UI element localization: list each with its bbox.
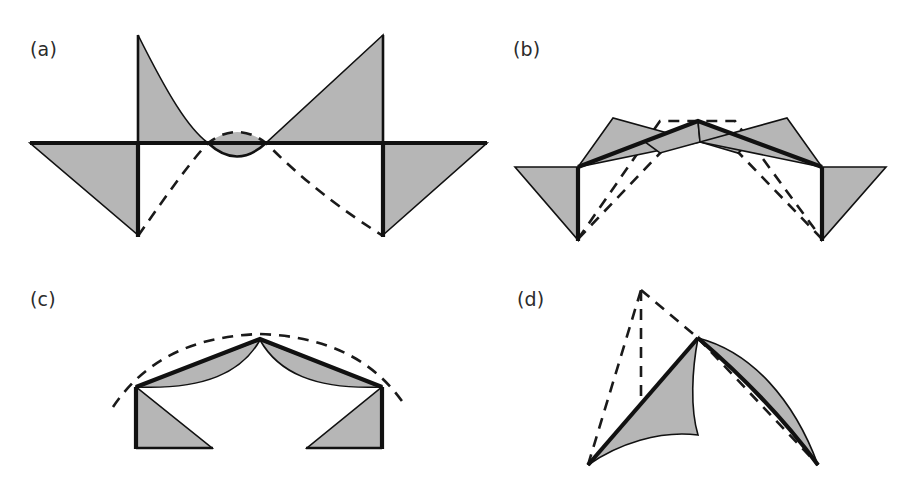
panel-a-label: (a) [30, 38, 57, 60]
figure-container: (a) (b) [0, 0, 908, 494]
figure-svg: (a) (b) [0, 0, 908, 494]
panel-d-label: (d) [517, 288, 545, 310]
panel-b-label: (b) [513, 38, 541, 60]
panel-c-label: (c) [30, 288, 56, 310]
